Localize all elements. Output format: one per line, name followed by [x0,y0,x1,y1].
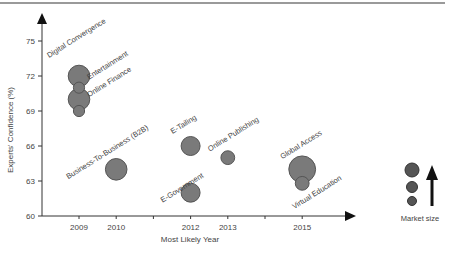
bubble-label: E-Tailing [169,113,198,136]
x-tick-label: 2013 [219,223,237,232]
x-axis-label: Most Likely Year [161,235,220,244]
x-tick-label: 2009 [70,223,88,232]
bubble-label: Digital Convergence [45,16,107,59]
y-axis-label: Experts' Confidence (%) [6,87,15,173]
y-tick-label: 69 [26,107,35,116]
bubble [105,159,127,181]
bubble [181,137,200,156]
legend: Market size [401,163,439,223]
bubble-chart: 60636669727520092010201220132015 Digital… [0,0,455,253]
bubble-label: Online Publishing [206,115,260,154]
x-axis-arrow [345,211,356,221]
bubble [73,82,84,93]
legend-bubble [408,197,417,206]
y-tick-label: 60 [26,212,35,221]
y-tick-label: 63 [26,177,35,186]
y-tick-label: 75 [26,37,35,46]
y-axis-arrow [37,13,47,24]
legend-arrow-head [426,165,438,180]
legend-bubble [407,182,418,193]
bubble [295,176,309,190]
x-tick-label: 2010 [107,223,125,232]
x-tick-label: 2015 [293,223,311,232]
bubble [73,105,84,116]
y-tick-label: 66 [26,142,35,151]
y-tick-label: 72 [26,72,35,81]
bubble [221,151,235,165]
legend-title: Market size [401,214,439,223]
legend-bubble [405,163,419,177]
x-tick-label: 2012 [182,223,200,232]
